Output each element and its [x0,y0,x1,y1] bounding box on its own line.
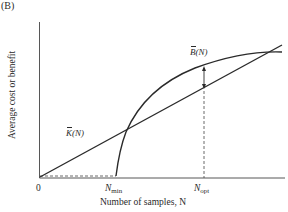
benefit-arg: (N) [196,47,208,57]
x-tick-nmin: Nmin [105,183,122,195]
arrow-head-up [202,66,206,71]
nmin-sub: min [111,187,122,195]
nopt-sub: opt [200,187,209,195]
benefit-curve-B [116,52,282,176]
chart-plot [0,0,288,212]
x-tick-origin: 0 [36,183,41,193]
x-tick-nopt: Nopt [194,183,209,195]
benefit-curve-label: B(N) [190,47,208,57]
cost-arg: (N) [72,128,84,138]
cost-letter: K [66,128,72,138]
cost-curve-label: K(N) [66,128,84,138]
cost-line-K [40,45,282,177]
x-axis-label: Number of samples, N [100,197,186,207]
benefit-letter: B [190,47,196,57]
y-axis-label: Average cost or benefit [7,47,17,143]
